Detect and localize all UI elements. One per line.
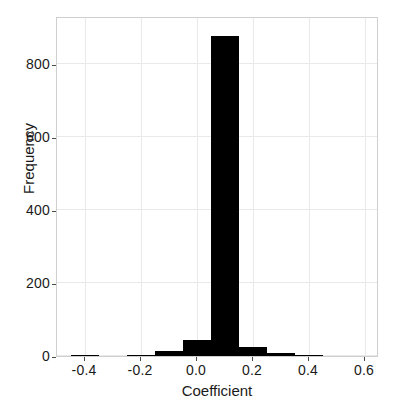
plot-area [56, 17, 378, 357]
gridline-vertical [253, 18, 254, 356]
x-tick-mark [308, 357, 309, 361]
histogram-bar [71, 355, 99, 357]
histogram-bar [183, 340, 211, 356]
gridline-vertical [85, 18, 86, 356]
y-tick-mark [52, 211, 56, 212]
x-tick-label: 0.4 [278, 362, 338, 378]
x-axis-label: Coefficient [56, 382, 378, 399]
gridline-vertical [365, 18, 366, 356]
y-tick-mark [52, 357, 56, 358]
x-tick-mark [364, 357, 365, 361]
x-tick-label: 0.6 [334, 362, 394, 378]
histogram-figure: 0200400600800 Coefficient Frequency -0.4… [0, 0, 397, 406]
y-tick-mark [52, 284, 56, 285]
gridline-vertical [197, 18, 198, 356]
x-tick-mark [140, 357, 141, 361]
x-tick-mark [252, 357, 253, 361]
gridline-vertical [141, 18, 142, 356]
y-axis-label: Frequency [20, 69, 37, 249]
histogram-bar [239, 347, 267, 357]
histogram-bar [127, 355, 155, 357]
x-tick-mark [84, 357, 85, 361]
histogram-bar [267, 353, 295, 356]
x-tick-label: 0.2 [222, 362, 282, 378]
y-tick-mark [52, 65, 56, 66]
histogram-bar [155, 351, 183, 356]
y-tick-label: 0 [2, 348, 50, 364]
x-tick-label: 0.0 [166, 362, 226, 378]
histogram-bar [211, 36, 239, 356]
x-tick-label: -0.4 [54, 362, 114, 378]
x-tick-mark [196, 357, 197, 361]
histogram-bar [295, 355, 323, 357]
gridline-vertical [309, 18, 310, 356]
y-tick-label: 200 [2, 275, 50, 291]
x-tick-label: -0.2 [110, 362, 170, 378]
y-tick-mark [52, 138, 56, 139]
